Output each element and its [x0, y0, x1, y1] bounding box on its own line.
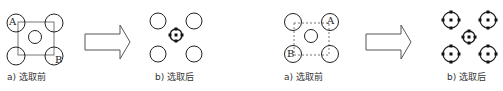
caption-after: b) 选取后 [155, 70, 194, 83]
right-arrow-icon [85, 25, 130, 59]
corner-label-b: B [55, 54, 62, 65]
selected-circle-bottom-left [442, 45, 461, 64]
corner-label-a: A [8, 16, 17, 27]
panel-left-after [150, 13, 202, 62]
circle-bottom-right [322, 46, 339, 63]
circle-top-left [150, 13, 166, 29]
circle-bottom-left [150, 46, 166, 62]
caption-before: a) 选取前 [7, 70, 46, 83]
diagram-canvas: A B A B [0, 0, 503, 91]
circle-top-left [285, 14, 302, 31]
corner-label-a: A [326, 15, 335, 26]
corner-label-b: B [287, 48, 294, 59]
caption-before: a) 选取前 [284, 70, 323, 83]
circle-bottom-right [186, 46, 202, 62]
selected-circle-top-left [442, 11, 461, 30]
grip-points [169, 28, 184, 43]
circle-center [305, 30, 318, 43]
selected-circle-bottom-right [479, 45, 498, 64]
panel-right-after [442, 11, 498, 64]
circle-bottom-left [7, 47, 25, 65]
circle-top-right [186, 13, 202, 29]
right-arrow-icon [366, 25, 411, 59]
selected-circle-center [462, 30, 477, 45]
caption-after: b) 选取后 [447, 70, 486, 83]
selected-circle-top-right [479, 11, 498, 30]
circle-center [29, 31, 42, 44]
